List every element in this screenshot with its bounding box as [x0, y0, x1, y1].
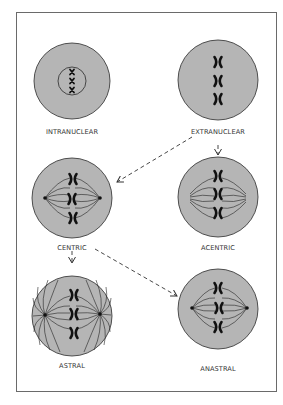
centriole — [43, 313, 47, 317]
centriole — [98, 312, 102, 316]
arrow-centric-to-anastral — [95, 249, 177, 296]
label-intranuclear: INTRANUCLEAR — [22, 128, 122, 136]
cell-acentric — [178, 157, 258, 237]
centriole — [245, 306, 249, 310]
diagram-canvas — [0, 0, 283, 405]
cell-intranuclear — [34, 43, 110, 119]
cell-extranuclear — [178, 40, 258, 120]
label-acentric: ACENTRIC — [168, 244, 268, 252]
label-astral: ASTRAL — [22, 362, 122, 370]
centriole — [98, 196, 102, 200]
label-centric: CENTRIC — [22, 244, 122, 252]
label-extranuclear: EXTRANUCLEAR — [168, 128, 268, 136]
label-anastral: ANASTRAL — [168, 365, 268, 373]
cell-astral — [32, 276, 112, 356]
cell-anastral — [178, 269, 258, 349]
mitosis-spindle-classification-diagram: INTRANUCLEAR EXTRANUCLEAR CENTRIC ACENTR… — [0, 0, 283, 405]
arrow-extranuclear-to-centric — [117, 137, 192, 182]
centriole — [190, 306, 194, 310]
cell-centric — [32, 158, 112, 238]
centriole — [43, 196, 47, 200]
